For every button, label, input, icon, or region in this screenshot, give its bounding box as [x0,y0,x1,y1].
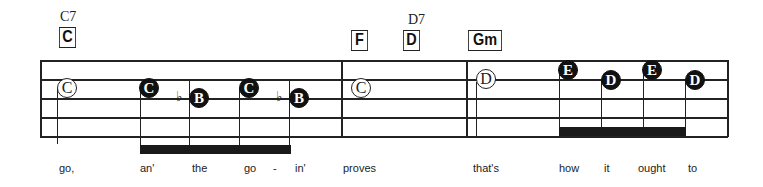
chord-alt-d7: D7 [408,13,425,27]
chord-alt-c7: C7 [60,10,76,24]
lyric-word: the [192,162,207,174]
note-head: D [601,70,621,90]
staff-line-3 [40,98,728,100]
barline-start [40,60,42,137]
flat-icon: ♭ [176,89,183,103]
flat-icon: ♭ [276,89,283,103]
staff-line-4 [40,117,728,119]
chord-box-c: C [59,27,76,48]
staff-line-5 [40,136,728,138]
note-head: E [642,60,662,80]
lyric-word: it [604,162,610,174]
lyric-word: ought [638,162,666,174]
lyric-word: to [688,162,697,174]
note-head: D [685,70,705,90]
lyric-word: how [559,162,579,174]
barline-end [727,60,729,137]
barline-1 [341,60,343,137]
lyric-word: go [244,162,256,174]
stem-2 [140,88,141,150]
stem-5 [289,79,290,150]
note-head: E [558,60,578,80]
stem-7 [476,82,477,137]
staff-line-1 [40,60,728,62]
lyric-word: an' [140,162,154,174]
beam-2 [559,127,686,136]
note-head: C [139,78,159,98]
stem-4 [239,88,240,150]
lyric-word: proves [343,162,376,174]
barline-2 [466,60,468,137]
note-head: C [351,78,371,98]
note-head: B [189,88,209,108]
lyric-word: in' [295,162,306,174]
note-head: D [476,69,496,89]
note-head: B [289,88,309,108]
beam-1 [140,145,291,154]
lyric-hyphen: - [273,162,277,174]
chord-box-gm: Gm [468,30,502,51]
stem-3 [189,79,190,150]
chord-box-d: D [403,30,420,51]
chord-box-f: F [351,30,368,51]
lyric-word: go, [59,162,74,174]
note-head: C [57,78,77,98]
stem-1 [57,88,58,144]
lyric-word: that's [473,162,499,174]
note-head: C [239,78,259,98]
